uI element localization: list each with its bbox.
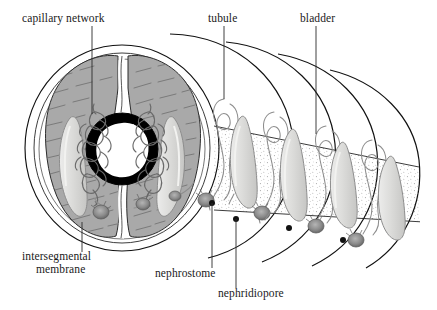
label-intersegmental-membrane-line2: membrane [36, 263, 85, 275]
label-capillary-network: capillary network [22, 12, 105, 25]
label-nephridiopore: nephridiopore [218, 287, 284, 300]
nephrostome-unit-3 [308, 219, 324, 233]
nephrostome-funnel-right [136, 198, 150, 210]
label-bladder: bladder [300, 12, 335, 24]
label-intersegmental-membrane: intersegmental [22, 250, 91, 263]
gut-lumen [96, 123, 148, 178]
diagram-canvas: capillary network tubule bladder interse… [0, 0, 437, 310]
nephridiopore-dot-3 [286, 225, 292, 231]
label-tubule: tubule [208, 12, 237, 24]
anatomical-figure: capillary network tubule bladder interse… [0, 0, 437, 310]
nephridiopore-dot-4 [340, 237, 346, 243]
nephrostome-funnel-left [93, 205, 109, 219]
label-nephrostome: nephrostome [155, 267, 216, 280]
nephrostome-unit-2 [254, 206, 270, 220]
nephrostome-funnel-extra [169, 191, 181, 201]
nephrostome-unit-4 [348, 233, 364, 247]
